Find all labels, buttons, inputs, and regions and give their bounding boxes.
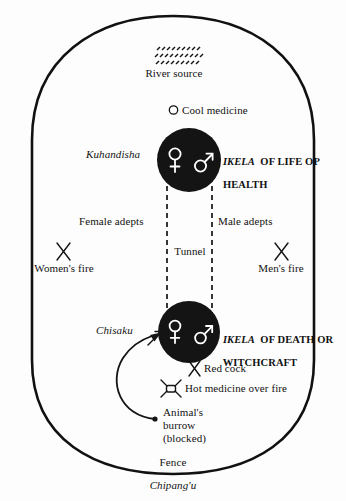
red-cock-icon bbox=[189, 361, 200, 376]
ikela-of-life-line2: HEALTH bbox=[223, 179, 268, 190]
animals-burrow-line3: (blocked) bbox=[163, 432, 206, 445]
tunnel-label: Tunnel bbox=[160, 245, 220, 258]
ikela-of-life-rest: OF LIFE OP bbox=[255, 156, 320, 167]
cool-medicine-open-circle-icon bbox=[169, 106, 177, 114]
womens-fire-label: Women's fire bbox=[24, 262, 104, 275]
mens-fire-icon bbox=[275, 243, 288, 260]
river-source-icon bbox=[155, 47, 203, 64]
diagram-canvas: River source Cool medicine Kuhandisha IK… bbox=[0, 0, 346, 501]
mens-fire-label: Men's fire bbox=[245, 262, 317, 275]
ikela-of-death-rest: OF DEATH OR bbox=[255, 334, 333, 345]
ikela-of-death-emphasis: IKELA bbox=[223, 334, 255, 345]
ikela-of-life-emphasis: IKELA bbox=[223, 156, 255, 167]
burrow-to-ikela-arrow-icon bbox=[117, 333, 161, 420]
ikela-of-life-label: IKELA OF LIFE OP HEALTH bbox=[212, 144, 320, 202]
hot-medicine-label: Hot medicine over fire bbox=[185, 382, 287, 395]
hot-medicine-over-fire-icon bbox=[161, 380, 181, 397]
male-adepts-label: Male adepts bbox=[218, 215, 273, 228]
fence-label: Fence bbox=[143, 456, 203, 469]
female-adepts-label: Female adepts bbox=[79, 215, 144, 228]
animals-burrow-line1: Animal's bbox=[163, 406, 203, 419]
lower-ikela-circle-icon bbox=[158, 301, 220, 363]
chipangu-label: Chipang'u bbox=[138, 479, 208, 492]
kuhandisha-label: Kuhandisha bbox=[86, 148, 140, 161]
cool-medicine-label: Cool medicine bbox=[182, 104, 248, 117]
chisaku-label: Chisaku bbox=[96, 324, 133, 337]
animals-burrow-line2: burrow bbox=[163, 419, 195, 432]
womens-fire-icon bbox=[57, 243, 70, 260]
red-cock-label: Red cock bbox=[204, 362, 246, 375]
river-source-label: River source bbox=[133, 67, 215, 80]
